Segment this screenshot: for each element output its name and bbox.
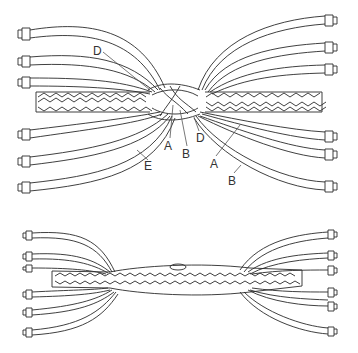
label-e: E [144,159,152,173]
right-tape-ends [325,15,337,192]
right-lower-strands [194,112,325,190]
bottom-left-tape-ends [23,231,32,337]
label-a-left: A [164,139,172,153]
label-d-lower: D [196,131,205,145]
bottom-right-strands [240,232,328,334]
left-lower-strands [30,112,175,191]
left-tape-ends [18,28,30,193]
top-figure: D E A B D A B [18,15,337,193]
leader-lines [103,52,241,173]
splice-diagram: D E A B D A B [0,0,358,353]
label-b-left: B [182,147,190,161]
right-upper-strands [198,16,325,94]
label-a-right: A [210,157,218,171]
bottom-figure [23,230,337,337]
label-b-right: B [228,174,236,188]
bottom-right-tape-ends [328,230,337,336]
left-upper-strands [30,27,165,94]
bottom-left-strands [32,232,118,335]
label-d-upper: D [93,44,102,58]
bottom-braided-core [52,264,302,295]
